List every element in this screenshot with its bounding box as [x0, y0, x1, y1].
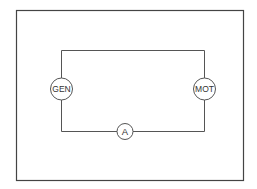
circuit-wires — [62, 51, 205, 132]
ammeter-label: A — [122, 126, 129, 137]
motor-label: MOT — [195, 84, 214, 94]
motor: MOT — [194, 78, 216, 100]
generator-label: GEN — [52, 84, 70, 94]
generator: GEN — [51, 78, 73, 100]
circuit-diagram: GEN MOT A — [0, 0, 257, 189]
ammeter: A — [117, 124, 133, 140]
